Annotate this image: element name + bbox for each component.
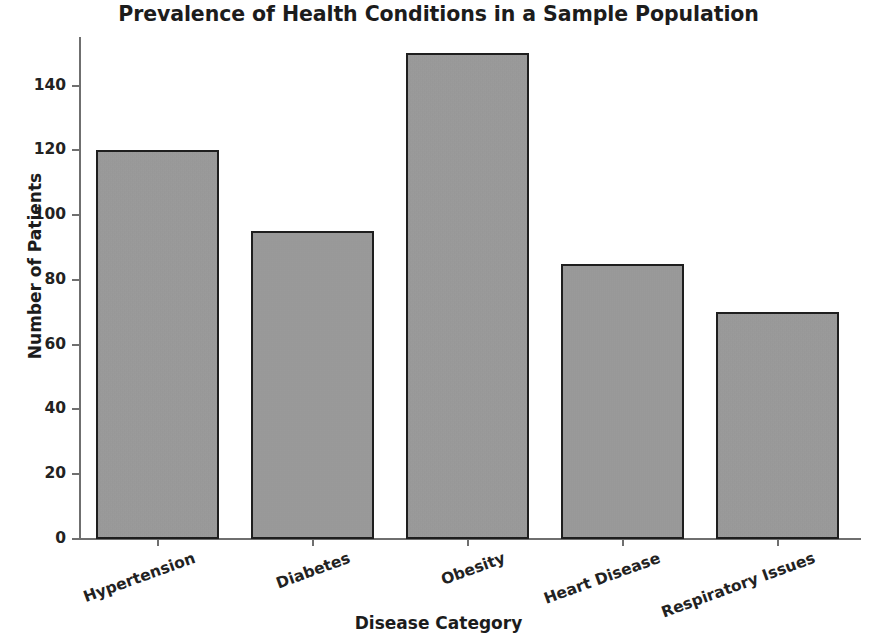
bar-rect [406, 53, 528, 539]
y-tick-mark [72, 85, 79, 87]
x-tick-mark [312, 540, 314, 546]
x-tick-mark [467, 540, 469, 546]
bar-hypertension [96, 150, 218, 539]
y-tick-mark [72, 408, 79, 410]
x-tick-mark [622, 540, 624, 546]
x-tick-mark [777, 540, 779, 546]
y-tick-label: 0 [4, 529, 66, 547]
bar-rect [561, 264, 683, 539]
y-tick-mark [72, 149, 79, 151]
x-axis-label: Disease Category [0, 613, 877, 633]
y-tick-mark [72, 473, 79, 475]
y-tick-label: 140 [4, 76, 66, 94]
bar-rect [96, 150, 218, 539]
bar-heart-disease [561, 264, 683, 539]
y-axis-label: Number of Patients [25, 126, 45, 406]
x-tick-mark [157, 540, 159, 546]
y-tick-mark [72, 344, 79, 346]
y-tick-mark [72, 538, 79, 540]
bar-rect [716, 312, 838, 539]
bar-chart-figure: Prevalence of Health Conditions in a Sam… [0, 0, 877, 641]
bar-obesity [406, 53, 528, 539]
chart-title: Prevalence of Health Conditions in a Sam… [0, 2, 877, 26]
y-tick-mark [72, 279, 79, 281]
y-tick-label: 20 [4, 464, 66, 482]
plot-area [80, 37, 855, 539]
bar-rect [251, 231, 373, 539]
bar-diabetes [251, 231, 373, 539]
y-tick-mark [72, 214, 79, 216]
bar-respiratory-issues [716, 312, 838, 539]
